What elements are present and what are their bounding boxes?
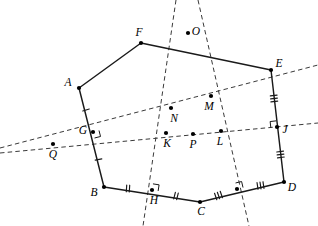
point-label-B: B <box>90 186 97 198</box>
point-dot-H <box>150 188 154 192</box>
line-Q-K-P-L-J <box>0 123 318 153</box>
point-dot-J <box>275 125 279 129</box>
point-label-P: P <box>188 138 196 150</box>
point-label-F: F <box>134 26 143 38</box>
point-dot-Q <box>51 142 55 146</box>
point-label-G: G <box>79 124 88 136</box>
point-dot-P <box>191 132 195 136</box>
point-label-J: J <box>282 123 288 135</box>
right-angle-G <box>95 130 101 138</box>
point-label-H: H <box>149 194 159 206</box>
tick-DE-1 <box>277 151 284 152</box>
polygon-edges-group <box>79 43 284 202</box>
point-label-A: A <box>63 76 72 88</box>
point-label-D: D <box>287 181 297 193</box>
point-label-L: L <box>216 135 223 147</box>
dashed-lines-group <box>0 0 318 226</box>
point-dot-E <box>269 68 273 72</box>
point-dot-X <box>235 187 239 191</box>
tick-DE-2 <box>270 95 277 96</box>
hexagon-ABCDEF <box>79 43 284 202</box>
point-label-C: C <box>197 205 205 217</box>
tick-DE-1 <box>277 154 284 155</box>
geometry-diagram-svg: ABCDEFGHJKLMNOPQ <box>0 0 318 226</box>
point-label-K: K <box>162 137 172 149</box>
point-dot-O <box>186 31 190 35</box>
tick-AB-2 <box>95 159 102 160</box>
point-dot-M <box>209 94 213 98</box>
point-dot-D <box>282 180 286 184</box>
tick-DE-1 <box>278 157 285 158</box>
tick-marks-group <box>83 95 284 200</box>
point-dot-F <box>139 41 143 45</box>
point-label-N: N <box>169 112 179 124</box>
point-dot-G <box>91 130 95 134</box>
point-dot-B <box>102 185 106 189</box>
point-dot-A <box>77 86 81 90</box>
line-Q-N-M <box>0 65 318 148</box>
point-label-O: O <box>192 25 201 37</box>
geometry-figure: ABCDEFGHJKLMNOPQ <box>0 0 318 226</box>
point-label-Q: Q <box>49 148 58 160</box>
point-label-E: E <box>274 57 282 69</box>
point-dot-L <box>219 129 223 133</box>
tick-DE-2 <box>271 101 278 102</box>
right-angle-marks-group <box>95 121 277 191</box>
point-dot-N <box>169 106 173 110</box>
point-dot-K <box>164 131 168 135</box>
tick-DE-2 <box>271 98 278 99</box>
point-label-M: M <box>203 100 215 112</box>
point-dot-C <box>198 200 202 204</box>
